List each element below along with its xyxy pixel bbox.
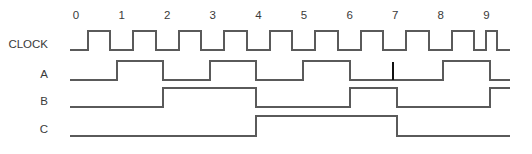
time-tick-label-5: 5 <box>301 9 307 21</box>
time-tick-label-3: 3 <box>210 9 216 21</box>
signal-label-b: B <box>40 95 48 107</box>
signal-waveforms <box>70 31 510 136</box>
time-tick-label-9: 9 <box>483 9 489 21</box>
time-tick-label-6: 6 <box>346 9 352 21</box>
signal-name-labels: CLOCKABC <box>8 38 48 135</box>
time-tick-label-4: 4 <box>255 9 262 21</box>
time-tick-label-7: 7 <box>392 9 398 21</box>
waveform-clock <box>70 31 510 50</box>
waveform-b <box>70 88 510 107</box>
signal-label-a: A <box>40 68 48 80</box>
time-tick-label-2: 2 <box>164 9 170 21</box>
time-axis-tick-labels: 0123456789 <box>73 9 490 21</box>
waveform-a <box>70 61 510 80</box>
time-tick-label-0: 0 <box>73 9 79 21</box>
timing-diagram: 0123456789 CLOCKABC <box>0 0 532 154</box>
waveform-c <box>70 116 510 136</box>
signal-label-c: C <box>40 123 48 135</box>
timing-waveform-canvas: 0123456789 CLOCKABC <box>0 0 532 154</box>
time-tick-label-1: 1 <box>118 9 124 21</box>
time-tick-label-8: 8 <box>438 9 444 21</box>
signal-label-clock: CLOCK <box>8 38 48 50</box>
